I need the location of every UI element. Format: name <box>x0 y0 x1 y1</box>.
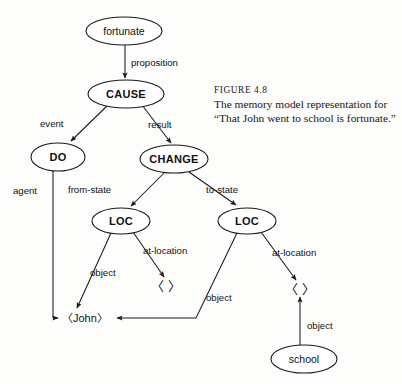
edge-result: result <box>142 105 172 143</box>
edge-label-event: event <box>40 118 64 129</box>
edge-from-state: from-state <box>68 172 165 206</box>
edge-label-object-from-loc: object <box>90 267 116 278</box>
figure-container: proposition event result agent from-stat… <box>0 0 402 384</box>
figure-caption-title: FIGURE 4.8 <box>214 84 398 97</box>
edge-at-location-from: at-location <box>133 232 187 277</box>
memory-model-diagram: proposition event result agent from-stat… <box>0 0 402 384</box>
node-loc-from-state[interactable]: LOC <box>92 208 150 234</box>
edge-label-object-to-loc: object <box>206 292 232 303</box>
node-label-loc-from-state: LOC <box>109 215 133 227</box>
node-label-do: DO <box>49 151 66 163</box>
edge-event: event <box>40 105 108 141</box>
edge-label-at-location-to: at-location <box>272 247 316 258</box>
edge-label-result: result <box>148 119 172 130</box>
edge-to-state: to-state <box>189 172 238 205</box>
edge-agent: agent <box>13 171 58 318</box>
node-school[interactable]: school <box>271 345 337 373</box>
node-fortunate[interactable]: fortunate <box>86 17 162 45</box>
edge-at-location-to: at-location <box>261 232 316 280</box>
node-do[interactable]: DO <box>31 143 85 171</box>
figure-caption-body: The memory model representation for “Tha… <box>214 98 398 125</box>
node-change[interactable]: CHANGE <box>140 145 208 173</box>
edge-label-object-school: object <box>307 320 333 331</box>
node-label-fortunate: fortunate <box>103 25 145 37</box>
edge-label-from-state: from-state <box>68 184 111 195</box>
edge-proposition: proposition <box>125 45 178 78</box>
node-cause[interactable]: CAUSE <box>88 80 164 108</box>
edge-label-at-location-from: at-location <box>143 245 187 256</box>
node-label-loc-to-state: LOC <box>235 215 259 227</box>
node-placeholder-right[interactable]: 〈 〉 <box>285 282 314 297</box>
node-token-john[interactable]: 〈John〉 <box>62 312 108 324</box>
node-label-change: CHANGE <box>149 153 198 165</box>
node-label-school: school <box>289 353 319 365</box>
node-loc-to-state[interactable]: LOC <box>218 208 276 234</box>
node-placeholder-left[interactable]: 〈 〉 <box>151 279 180 294</box>
edge-object-school: object <box>300 297 333 345</box>
node-label-cause: CAUSE <box>106 88 146 100</box>
edge-label-agent: agent <box>13 185 37 196</box>
edge-object-from-loc: object <box>77 233 116 308</box>
edge-label-to-state: to-state <box>206 184 238 195</box>
node-layer: fortunate CAUSE DO CHANGE LOC LOC <box>31 17 337 373</box>
figure-caption: FIGURE 4.8 The memory model representati… <box>214 84 398 125</box>
edge-label-proposition: proposition <box>131 57 178 68</box>
